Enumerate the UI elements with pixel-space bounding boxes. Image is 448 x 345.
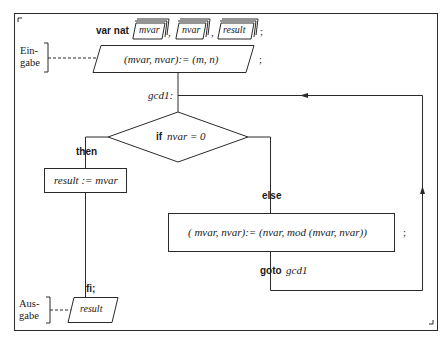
then-statement: result := mvar (54, 175, 118, 186)
output-side-label: Aus- gabe (19, 298, 39, 322)
else-terminator: ; (403, 228, 406, 239)
else-connector (248, 137, 271, 213)
declaration-separator-2: , (211, 28, 214, 39)
output-side-label-line2: gabe (19, 310, 39, 322)
else-statement: ( mvar, nvar):= (nvar, mod (mvar, nvar)) (188, 227, 367, 238)
loop-label: gcd1: (148, 90, 173, 101)
arrow-up-icon (420, 186, 425, 194)
declaration-separator-1: , (168, 28, 171, 39)
output-value: result (80, 304, 102, 314)
output-bracket (46, 297, 50, 323)
input-side-label: Ein- gabe (20, 45, 40, 69)
flowchart-canvas (0, 0, 448, 345)
var-mvar: mvar (139, 25, 160, 35)
input-side-label-line2: gabe (20, 57, 40, 69)
output-side-label-line1: Aus- (19, 298, 39, 310)
goto-loop-line (271, 96, 423, 291)
input-terminator: ; (259, 55, 262, 66)
decision-if-keyword: if (156, 132, 162, 142)
var-nvar: nvar (182, 25, 200, 35)
goto-keyword: goto (260, 266, 282, 276)
declaration-keyword: var nat (96, 26, 129, 36)
then-keyword: then (76, 147, 97, 157)
goto-target: gcd1 (286, 265, 307, 276)
else-keyword: else (262, 191, 281, 201)
decision-condition: nvar = 0 (167, 131, 206, 142)
var-result: result (223, 25, 245, 35)
arrow-left-icon (300, 93, 308, 98)
outer-frame (15, 14, 438, 331)
input-statement: (mvar, nvar):= (m, n) (124, 54, 218, 65)
input-side-label-line1: Ein- (20, 45, 40, 57)
input-bracket (44, 43, 48, 72)
corner-mark-top-left (18, 18, 22, 22)
corner-mark-bottom-right (429, 320, 433, 324)
declaration-terminator: ; (260, 27, 263, 38)
fi-keyword: fi; (86, 284, 95, 294)
